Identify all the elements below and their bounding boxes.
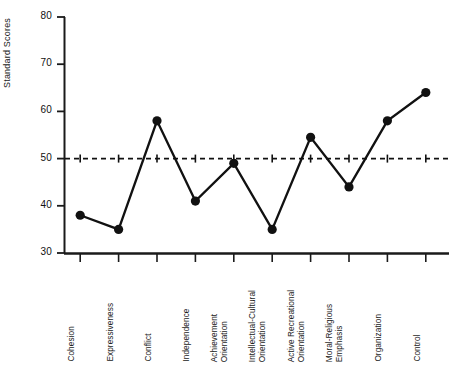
x-tick-label-line: Active Recreational [286, 258, 296, 362]
x-tick-label-line: Expressiveness [106, 258, 116, 362]
x-tick-label-line: Cohesion [68, 258, 78, 362]
y-tick-label: 30 [28, 246, 52, 257]
x-tick-label-line: Orientation [296, 258, 306, 362]
data-point [114, 225, 123, 234]
x-tick-label-line: Moral-Religious [325, 258, 335, 362]
data-point [268, 225, 277, 234]
data-point [76, 211, 85, 220]
x-tick-label: AchievementOrientation [210, 258, 229, 362]
data-point [191, 196, 200, 205]
x-tick-label-line: Emphasis [334, 258, 344, 362]
x-tick-label: Control [413, 258, 423, 362]
data-point [229, 159, 238, 168]
y-tick-label: 70 [28, 57, 52, 68]
x-tick-label-line: Control [413, 258, 423, 362]
x-tick-label: Cohesion [68, 258, 78, 362]
x-tick-label: Active RecreationalOrientation [286, 258, 305, 362]
x-tick-label-line: Orientation [219, 258, 229, 362]
x-tick-label-line: Intellectual-Cultural [248, 258, 258, 362]
chart-container: Standard Scores 807060504030 CohesionExp… [0, 0, 461, 365]
data-series-markers [76, 88, 431, 234]
y-tick-label: 60 [28, 104, 52, 115]
y-tick-label: 80 [28, 10, 52, 21]
x-tick-label-line: Orientation [258, 258, 268, 362]
x-tick-label: Expressiveness [106, 258, 116, 362]
data-point [421, 88, 430, 97]
x-tick-label-line: Conflict [144, 258, 154, 362]
x-tick-label: Conflict [144, 258, 154, 362]
x-tick-label-line: Independence [183, 258, 193, 362]
x-tick-label: Moral-ReligiousEmphasis [325, 258, 344, 362]
x-tick-label-line: Achievement [210, 258, 220, 362]
data-point [152, 116, 161, 125]
x-tick-label: Independence [183, 258, 193, 362]
data-point [383, 116, 392, 125]
y-tick-label: 40 [28, 199, 52, 210]
x-tick-label: Organization [375, 258, 385, 362]
data-series-line [80, 93, 426, 230]
data-point [344, 182, 353, 191]
x-tick-label: Intellectual-CulturalOrientation [248, 258, 267, 362]
x-tick-label-line: Organization [375, 258, 385, 362]
y-tick-label: 50 [28, 152, 52, 163]
data-point [306, 133, 315, 142]
